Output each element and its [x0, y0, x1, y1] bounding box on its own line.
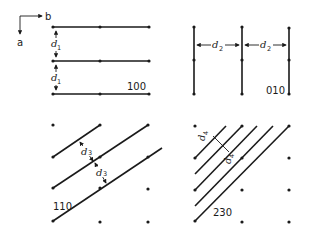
- svg-text:1: 1: [57, 78, 61, 86]
- panel-label-110: 110: [53, 201, 72, 212]
- panel-label-010: 010: [266, 85, 285, 96]
- spacing-label-d2: d: [212, 39, 218, 50]
- a-axis-label: a: [17, 37, 23, 48]
- spacing-tick-icon: [213, 136, 229, 152]
- spacing-label-d3: d: [96, 167, 102, 178]
- svg-text:2: 2: [219, 45, 223, 53]
- spacing-label-d3: d: [81, 146, 87, 157]
- svg-text:3: 3: [88, 149, 92, 157]
- spacing-label-d2: d: [260, 39, 266, 50]
- axis-indicator: b a: [17, 11, 51, 48]
- lattice-planes-diagram: b a d 1 d 1 100 d 2 d 2: [0, 0, 309, 235]
- svg-text:2: 2: [267, 45, 271, 53]
- svg-text:3: 3: [103, 170, 107, 178]
- svg-text:4: 4: [228, 154, 236, 158]
- panel-010: d 2 d 2 010: [192, 25, 290, 96]
- panel-label-230: 230: [213, 207, 232, 218]
- panel-label-100: 100: [127, 81, 146, 92]
- panel-230: d 4 d 4 230: [193, 124, 290, 223]
- svg-text:1: 1: [57, 44, 61, 52]
- b-axis-label: b: [45, 11, 51, 22]
- panel-110: d 3 d 3 110: [51, 123, 162, 223]
- svg-text:4: 4: [202, 131, 210, 135]
- panel-100: d 1 d 1 100: [50, 25, 151, 95]
